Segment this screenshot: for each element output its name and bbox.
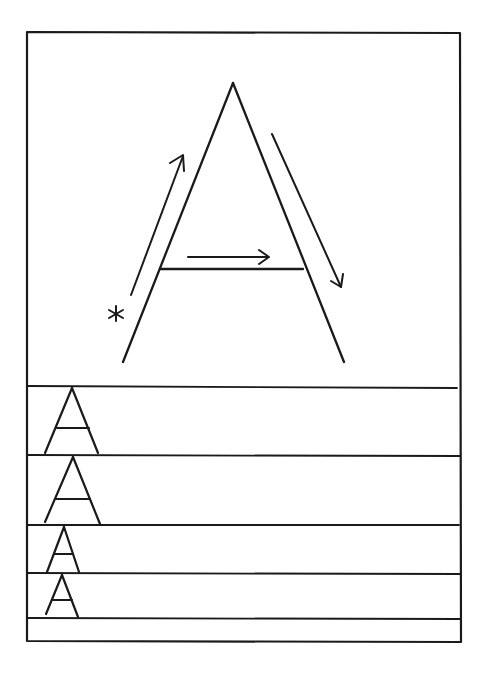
practice-row-2-sample-a [45,457,100,524]
practice-line-2 [28,455,460,456]
practice-line-5 [28,618,461,619]
practice-row-4-sample-a [46,575,78,617]
practice-line-1 [28,386,457,388]
practice-row-1-sample-a [45,388,98,453]
practice-row-3-sample-a [47,527,79,572]
arrow-right-icon [188,250,269,264]
start-marker-asterisk-icon [109,306,123,321]
worksheet [0,0,482,674]
letter-a-right-stroke [233,83,344,362]
worksheet-border [27,32,461,642]
practice-lines [28,386,461,619]
practice-line-4 [28,573,461,574]
letter-a-left-stroke [123,83,233,362]
